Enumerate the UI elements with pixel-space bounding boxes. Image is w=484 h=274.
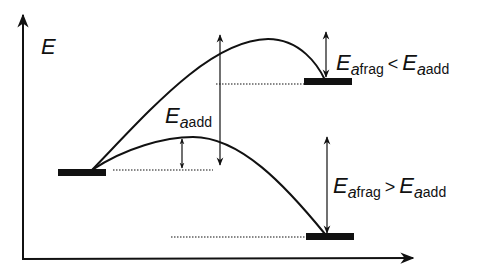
bottom-condition-label: Eafrag>Eaadd — [333, 175, 446, 197]
bottom-rhs-a: a — [414, 184, 423, 201]
bottom-lhs-sub: frag — [357, 184, 381, 200]
product-low-level-bar — [306, 233, 354, 240]
lower-reaction-curve — [92, 137, 325, 234]
bottom-operator: > — [385, 177, 396, 197]
x-axis — [22, 258, 413, 259]
reactant-level-bar — [58, 169, 106, 176]
ea-add-label: Eaadd — [165, 105, 212, 127]
energy-axis-label: E — [41, 36, 56, 58]
bottom-rhs-E: E — [399, 173, 414, 198]
top-lhs-a: a — [351, 61, 360, 78]
ea-add-label-sub: add — [189, 114, 212, 130]
bottom-rhs-sub: add — [423, 184, 446, 200]
ea-add-label-a: a — [180, 114, 189, 131]
bottom-lhs-a: a — [348, 184, 357, 201]
top-lhs-sub: frag — [360, 61, 384, 77]
top-operator: < — [388, 54, 399, 74]
ea-add-label-E: E — [165, 103, 180, 128]
top-rhs-E: E — [402, 50, 417, 75]
top-lhs-E: E — [336, 50, 351, 75]
energy-diagram — [0, 0, 484, 274]
product-high-level-bar — [304, 78, 352, 85]
top-condition-label: Eafrag<Eaadd — [336, 52, 449, 74]
top-rhs-a: a — [417, 61, 426, 78]
bottom-lhs-E: E — [333, 173, 348, 198]
top-rhs-sub: add — [426, 61, 449, 77]
